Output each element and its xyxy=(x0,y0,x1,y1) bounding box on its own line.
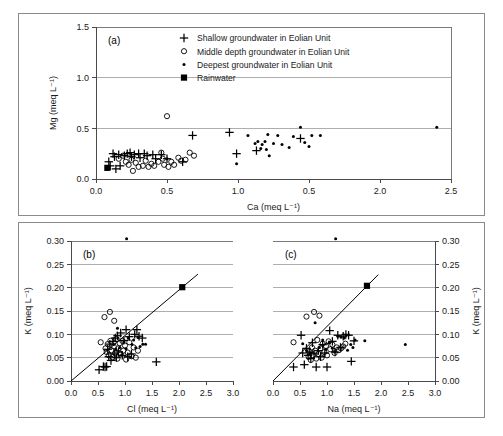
series-square xyxy=(104,165,110,171)
y-tick-label: 0.0 xyxy=(76,174,89,184)
y-tick-label: 0.20 xyxy=(442,283,460,293)
data-point xyxy=(122,340,125,343)
x-tick-label: 1.0 xyxy=(119,388,132,398)
data-point xyxy=(343,337,346,340)
panel-tag: (b) xyxy=(83,249,95,260)
trend-line xyxy=(71,274,198,381)
data-point xyxy=(164,114,169,119)
panel-a-frame: 0.00.51.01.50.00.51.00.52.02.5Ca (meq L⁻… xyxy=(18,13,485,216)
data-point xyxy=(261,143,264,146)
data-point xyxy=(300,360,308,368)
y-tick-label: 0.10 xyxy=(442,330,460,340)
data-point xyxy=(303,141,306,144)
data-point xyxy=(310,134,313,137)
legend-marker-cross xyxy=(180,34,188,42)
y-tick-label: 1.5 xyxy=(76,22,89,32)
x-tick-label: 3.0 xyxy=(227,388,240,398)
y-tick-label: 1.0 xyxy=(76,73,89,83)
legend-label: Deepest groundwater in Eolian Unit xyxy=(197,60,333,70)
y-tick-label: 0.15 xyxy=(442,306,460,316)
data-point xyxy=(256,140,259,143)
x-tick-label: 0.5 xyxy=(294,388,307,398)
data-point xyxy=(328,341,331,344)
data-point xyxy=(281,143,284,146)
x-tick-label: 0.5 xyxy=(92,388,105,398)
y-tick-label: 0.5 xyxy=(76,124,89,134)
panel-b-chart: 0.000.050.100.150.200.250.300.00.51.01.5… xyxy=(19,223,252,417)
x-tick-label: 2.0 xyxy=(173,388,186,398)
x-tick-label: 1.5 xyxy=(348,388,361,398)
data-point xyxy=(308,145,311,148)
data-point xyxy=(301,342,304,345)
data-point xyxy=(324,348,327,351)
y-tick-label: 0.25 xyxy=(442,260,460,270)
data-point xyxy=(179,284,185,290)
data-point xyxy=(127,337,130,340)
series-cross xyxy=(105,128,305,173)
data-point xyxy=(364,283,370,289)
data-point xyxy=(312,363,320,371)
data-point xyxy=(191,153,196,158)
x-axis-title: Na (meq L⁻¹) xyxy=(327,404,380,414)
data-point xyxy=(134,346,137,349)
data-point xyxy=(315,337,320,342)
data-point xyxy=(146,164,151,169)
legend-marker-dot xyxy=(183,63,186,66)
data-point xyxy=(139,345,142,348)
legend-label: Middle depth groundwater in Eolian Unit xyxy=(197,47,350,57)
x-axis-title: Cl (meq L⁻¹) xyxy=(127,404,177,414)
data-point xyxy=(104,165,110,171)
data-point xyxy=(404,343,407,346)
x-tick-label: 1.5 xyxy=(146,388,159,398)
data-point xyxy=(318,346,321,349)
data-point xyxy=(114,348,117,351)
data-point xyxy=(317,313,322,318)
y-tick-label: 0.20 xyxy=(46,283,64,293)
y-tick-label: 0.05 xyxy=(46,353,64,363)
y-tick-label: 0.00 xyxy=(442,376,460,386)
legend: Shallow groundwater in Eolian UnitMiddle… xyxy=(180,33,350,83)
data-point xyxy=(125,347,128,350)
data-point xyxy=(288,146,291,149)
data-point xyxy=(123,159,128,164)
data-point xyxy=(304,314,309,319)
data-point xyxy=(435,126,438,129)
data-point xyxy=(129,356,132,359)
data-point xyxy=(105,158,113,166)
data-point xyxy=(112,343,115,346)
x-tick-label: 1.0 xyxy=(321,388,334,398)
y-tick-label: 0.15 xyxy=(46,306,64,316)
legend-marker-circle xyxy=(181,49,186,54)
data-point xyxy=(252,146,260,154)
data-point xyxy=(326,326,334,334)
y-tick-label: 0.05 xyxy=(442,353,460,363)
data-point xyxy=(265,148,268,151)
panel-c-chart: 0.000.050.100.150.200.250.300.00.51.01.5… xyxy=(251,223,484,417)
trend-line xyxy=(273,275,378,381)
data-point xyxy=(225,128,233,136)
x-tick-label: 2.5 xyxy=(445,186,458,196)
data-point xyxy=(102,314,107,319)
y-tick-label: 0.30 xyxy=(442,236,460,246)
data-point xyxy=(268,154,271,157)
data-point xyxy=(113,350,118,355)
y-axis-title: K (meq L⁻¹) xyxy=(471,287,481,335)
panel-tag: (a) xyxy=(108,35,120,46)
data-point xyxy=(297,331,305,339)
data-point xyxy=(314,321,317,324)
data-point xyxy=(363,339,366,342)
y-tick-label: 0.00 xyxy=(46,376,64,386)
data-point xyxy=(299,126,302,129)
data-point xyxy=(141,343,144,346)
data-point xyxy=(107,309,112,314)
data-point xyxy=(336,335,339,338)
data-point xyxy=(143,158,148,163)
data-point xyxy=(130,168,135,173)
x-axis-title: Ca (meq L⁻¹) xyxy=(247,202,300,212)
data-point xyxy=(334,237,337,240)
data-point xyxy=(349,343,352,346)
data-point xyxy=(157,150,165,158)
data-point xyxy=(347,357,355,365)
data-point xyxy=(116,327,119,330)
x-tick-label: 0.5 xyxy=(161,186,174,196)
